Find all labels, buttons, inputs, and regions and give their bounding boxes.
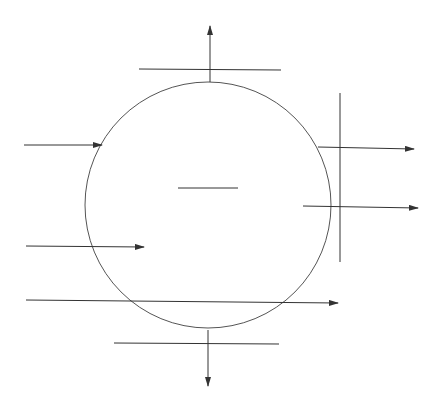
arrow-right-mid-outgoing <box>303 206 418 208</box>
arrow-bottom-through <box>26 300 338 303</box>
bottom-tangent-line <box>114 343 279 344</box>
force-diagram <box>0 0 439 412</box>
arrow-right-top-outgoing <box>318 147 414 149</box>
arrow-left-mid-incoming <box>26 246 144 247</box>
circle-body <box>85 82 331 328</box>
